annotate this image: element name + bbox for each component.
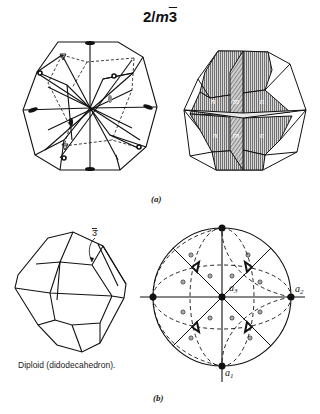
rotoinversion-callout: 3̄	[89, 228, 99, 262]
face-label: n	[260, 130, 265, 140]
axis-label-a3: a3	[229, 282, 238, 295]
panel-b-caption: (b)	[153, 393, 164, 403]
face-label: n	[211, 96, 216, 106]
svg-text:m: m	[233, 96, 240, 106]
crystal-figure: n m n n m n 3̄	[0, 0, 320, 414]
axis-label-a1: a1	[225, 367, 234, 380]
svg-text:n: n	[211, 96, 216, 106]
face-label: m	[233, 96, 240, 106]
shaded-polyhedron	[184, 51, 306, 170]
diploid-caption: Diploid (didodecahedron).	[18, 360, 115, 370]
callout-3bar: 3̄	[92, 228, 99, 238]
face-label: n	[213, 130, 218, 140]
axis-label-a2: a2	[295, 283, 304, 296]
svg-text:n: n	[260, 130, 265, 140]
svg-text:n: n	[213, 130, 218, 140]
panel-a-caption: (a)	[151, 194, 162, 204]
symmetry-polyhedron	[23, 42, 157, 170]
face-label: n	[260, 96, 265, 106]
diploid-drawing	[15, 232, 126, 352]
svg-text:n: n	[260, 96, 265, 106]
stereogram	[140, 226, 305, 382]
face-label: m	[233, 130, 240, 140]
svg-text:m: m	[233, 130, 240, 140]
